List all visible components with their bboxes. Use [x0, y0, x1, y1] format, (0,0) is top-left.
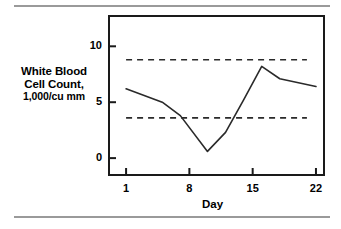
x-axis-title: Day — [0, 198, 341, 210]
reference-lines-group — [126, 60, 307, 118]
data-series-group — [126, 66, 316, 151]
y-tick-label: 5 — [76, 95, 102, 107]
y-tick-label: 10 — [76, 39, 102, 51]
x-tick-label: 15 — [241, 182, 265, 194]
y-axis-title-line-1: White Blood — [8, 65, 100, 78]
figure-container: White Blood Cell Count, 1,000/cu mm 0510… — [0, 0, 341, 229]
y-axis-title-line-2: Cell Count, — [8, 78, 100, 91]
bottom-divider-rule — [14, 216, 330, 218]
x-tick-label: 22 — [304, 182, 328, 194]
y-tick-label: 0 — [76, 151, 102, 163]
x-axis-title-text: Day — [202, 198, 223, 210]
y-axis-tick-marks — [108, 46, 116, 158]
x-tick-label: 8 — [177, 182, 201, 194]
x-tick-label: 1 — [114, 182, 138, 194]
x-axis-tick-marks — [126, 168, 316, 176]
top-divider-rule — [14, 5, 330, 7]
plot-area — [108, 15, 325, 176]
